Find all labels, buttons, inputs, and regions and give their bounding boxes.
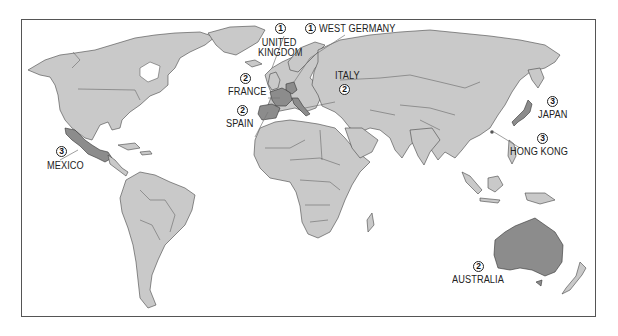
java: [480, 198, 500, 203]
iceland: [245, 60, 262, 67]
country-label: JAPAN: [538, 110, 567, 120]
north-america: [28, 32, 215, 140]
tasmania: [536, 280, 542, 286]
caribbean: [118, 143, 152, 155]
spain: [258, 104, 280, 120]
rank-badge: 1: [305, 23, 316, 34]
rank-badge: 2: [237, 105, 248, 116]
rank-badge: 3: [537, 133, 548, 144]
rank-badge: 3: [547, 96, 558, 107]
new-zealand: [562, 262, 586, 294]
japan: [512, 100, 532, 126]
world-map: [0, 0, 618, 336]
sumatra: [462, 172, 482, 194]
country-label: FRANCE: [228, 87, 266, 97]
rank-badge: 2: [473, 261, 484, 272]
australia: [494, 218, 563, 276]
country-label: AUSTRALIA: [452, 275, 504, 285]
country-label: ITALY: [335, 71, 360, 81]
rank-badge: 1: [275, 23, 286, 34]
borneo: [488, 176, 503, 192]
kamchatka: [528, 68, 544, 88]
country-label: MEXICO: [47, 161, 84, 171]
rank-badge: 3: [56, 146, 67, 157]
rank-badge: 2: [240, 73, 251, 84]
country-label: SPAIN: [226, 119, 253, 129]
madagascar: [367, 213, 374, 232]
greenland: [208, 26, 265, 55]
country-label: UNITED KINGDOM: [258, 38, 300, 58]
rank-badge: 2: [339, 84, 350, 95]
country-label: HONG KONG: [510, 147, 568, 157]
south-america: [120, 172, 195, 308]
country-label: WEST GERMANY: [319, 24, 396, 34]
central-america: [108, 155, 128, 176]
new-guinea: [525, 193, 555, 204]
hong-kong: [490, 130, 494, 134]
